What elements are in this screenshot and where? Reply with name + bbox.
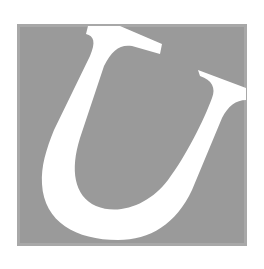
dropcap-letter-u [0,0,264,269]
